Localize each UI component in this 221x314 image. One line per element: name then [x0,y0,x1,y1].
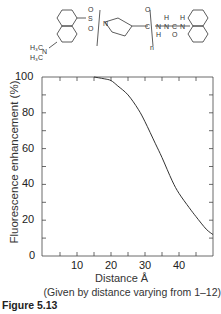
svg-text:N: N [156,23,161,30]
x-tick-label: 20 [105,259,117,271]
figure-label: Figure 5.13 [2,299,57,311]
plot-area [42,77,213,256]
x-tick-label: 10 [71,259,83,271]
svg-text:n: n [150,44,154,51]
x-tick-label: 30 [139,259,151,271]
x-axis-label: Distance Å [95,272,148,284]
svg-text:O: O [172,31,178,38]
y-tick-label: 40 [22,177,34,189]
svg-text:N: N [180,23,185,30]
y-axis-label: Fluorescence enhancement (%) [8,77,22,247]
svg-text:H: H [156,31,161,38]
svg-text:H: H [164,14,169,21]
y-tick-label: 60 [22,142,34,154]
figure-caption: (Given by distance varying from 1–12) [0,286,221,298]
svg-text:S: S [88,15,93,22]
svg-text:H: H [180,14,185,21]
svg-text:N: N [103,20,108,27]
svg-text:O: O [88,25,94,32]
y-tick-label: 80 [22,106,34,118]
svg-text:O: O [145,6,151,13]
axis-ticks [42,77,213,256]
chemical-labels: S O O N C O N H N H C O N H n H₃C N H₃C [30,6,185,61]
svg-text:C: C [145,23,150,30]
y-tick-label: 0 [29,249,35,261]
data-line [94,77,213,235]
svg-text:O: O [88,6,94,13]
svg-text:N: N [164,23,169,30]
svg-text:C: C [172,23,177,30]
y-tick-label: 20 [22,213,34,225]
x-tick-label: 40 [173,259,185,271]
svg-text:H₃C: H₃C [30,54,43,61]
